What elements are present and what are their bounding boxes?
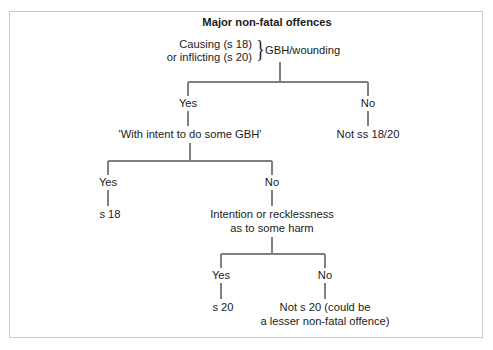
root-premise-line-1: Causing (s 18) [164, 38, 252, 52]
level3-yes-result: s 20 [212, 301, 233, 315]
level2-yes-label: Yes [99, 176, 117, 190]
diagram-title: Major non-fatal offences [202, 16, 331, 30]
root-question: GBH/wounding [265, 44, 340, 58]
level3-no-result-line-2: a lesser non-fatal offence) [260, 315, 389, 329]
level3-no-result-line-1: Not s 20 (could be [280, 301, 371, 315]
level1-no-label: No [361, 97, 375, 111]
level3-no-label: No [318, 269, 332, 283]
level1-yes-result: 'With intent to do some GBH' [119, 128, 262, 142]
flowchart-page: Major non-fatal offences Causing (s 18) … [0, 0, 493, 350]
brace-glyph: } [256, 36, 265, 62]
level2-yes-result: s 18 [99, 208, 120, 222]
level1-yes-label: Yes [179, 97, 197, 111]
level2-no-result-line-2: as to some harm [230, 222, 313, 236]
level1-no-result: Not ss 18/20 [337, 128, 400, 142]
level2-no-result-line-1: Intention or recklessness [210, 208, 334, 222]
level2-no-label: No [265, 176, 279, 190]
level3-yes-label: Yes [212, 269, 230, 283]
root-premise-line-2: or inflicting (s 20) [164, 51, 252, 65]
